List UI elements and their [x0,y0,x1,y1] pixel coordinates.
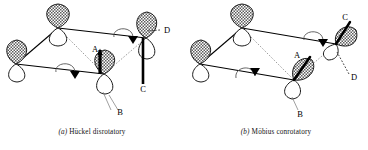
orbital-rear-left [47,4,70,46]
orbital-right-labeled-cd [323,22,356,60]
lobe-shaded [231,4,254,28]
panel-mobius-conrotatory: A B C D (b) Möbius conrotatory [184,0,368,150]
label-a: A [92,44,99,54]
caption-tag-a: (a) [58,128,67,136]
caption-text-b: Möbius conrotatory [252,128,312,136]
arrow-head [318,39,328,47]
caption-panel-a: (a) Hückel disrotatory [0,128,184,136]
rotation-arrow-rear-right [114,29,138,44]
label-a: A [294,50,301,60]
leader-line-d [337,52,349,74]
orbital-far-left [191,40,211,82]
panel-a-artwork: A B C D [0,0,184,128]
rotation-arrow-front-left [236,68,260,78]
label-b: B [117,107,123,117]
lobe-shaded [191,40,211,64]
frame-edge-front [200,64,294,80]
label-c: C [140,84,146,94]
label-d: D [351,72,357,82]
figure-sheet: A B C D (a) Hückel disrotatory [0,0,368,150]
orbital-rear-left [231,4,254,46]
panel-b-artwork: A B C D [184,0,368,128]
lobe-open [97,74,113,94]
orbital-front-labeled-ab [95,50,115,94]
frame-parallelogram [16,28,146,74]
orbital-far-left [7,40,27,82]
lobe-open [139,38,155,59]
lobe-open [285,80,301,99]
lobe-open [49,28,66,46]
caption-panel-b: (b) Möbius conrotatory [184,128,368,136]
lobe-open [323,44,338,60]
arrow-head [128,36,138,44]
orbital-front-labeled-ab [285,57,314,99]
frame-edge-front [16,64,104,74]
label-c: C [342,12,348,22]
arrow-head [70,71,80,79]
label-d: D [164,25,170,35]
lobe-open [233,28,250,46]
leader-line-b [103,92,111,110]
caption-text-a: Hückel disrotatory [69,128,125,136]
rotation-arrow-front-left [56,64,80,79]
lobe-shaded [47,4,70,28]
caption-tag-b: (b) [241,128,250,136]
lobe-open [9,64,25,82]
lobe-open [193,64,209,82]
lobe-shaded [137,12,157,38]
orbital-right-labeled-cd [137,12,157,84]
panel-huckel-disrotatory: A B C D (a) Hückel disrotatory [0,0,184,150]
lobe-shaded [7,40,27,64]
label-b: B [297,109,303,119]
frame-parallelogram [200,28,336,80]
arrow-head [250,68,260,76]
